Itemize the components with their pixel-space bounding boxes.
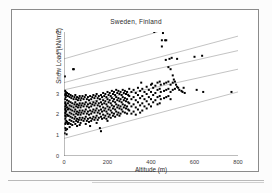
x-tick-label: 800 bbox=[229, 159, 247, 165]
data-point bbox=[90, 120, 92, 122]
data-point bbox=[69, 104, 71, 106]
data-point bbox=[150, 98, 152, 100]
data-point bbox=[70, 120, 72, 122]
data-point bbox=[68, 115, 70, 117]
data-point bbox=[139, 97, 141, 99]
data-point bbox=[70, 97, 72, 99]
data-point bbox=[112, 93, 114, 95]
data-point bbox=[114, 101, 116, 103]
data-point bbox=[96, 122, 98, 124]
data-point bbox=[95, 102, 97, 104]
data-point bbox=[89, 95, 91, 97]
data-point bbox=[64, 127, 66, 129]
data-point bbox=[77, 106, 79, 108]
data-point bbox=[150, 105, 152, 107]
data-point bbox=[170, 68, 172, 70]
data-point bbox=[77, 114, 79, 116]
data-point bbox=[104, 107, 106, 109]
data-point bbox=[165, 82, 167, 84]
data-point bbox=[116, 106, 118, 108]
data-point bbox=[84, 96, 86, 98]
data-point bbox=[85, 101, 87, 103]
data-point bbox=[112, 115, 114, 117]
data-point bbox=[157, 89, 159, 91]
envelope-upper-1 bbox=[64, 32, 158, 59]
data-point bbox=[107, 105, 109, 107]
data-point bbox=[91, 103, 93, 105]
y-axis-label-wrap: Snow Load (kN/m2) bbox=[47, 11, 59, 101]
data-point bbox=[167, 88, 169, 90]
data-point bbox=[139, 112, 141, 114]
data-point bbox=[121, 101, 123, 103]
data-point bbox=[103, 117, 105, 119]
data-point bbox=[89, 110, 91, 112]
data-point bbox=[83, 113, 85, 115]
data-point bbox=[125, 107, 127, 109]
plot-svg bbox=[64, 32, 238, 156]
data-point bbox=[148, 96, 150, 98]
data-point bbox=[126, 98, 128, 100]
data-point bbox=[112, 107, 114, 109]
data-point bbox=[171, 57, 173, 59]
data-point bbox=[85, 94, 87, 96]
data-point bbox=[159, 88, 161, 90]
data-point bbox=[104, 115, 106, 117]
data-point bbox=[176, 58, 178, 60]
data-point bbox=[95, 110, 97, 112]
data-point bbox=[70, 105, 72, 107]
data-point bbox=[161, 45, 163, 47]
data-point bbox=[111, 112, 113, 114]
data-point bbox=[96, 100, 98, 102]
data-point bbox=[175, 84, 177, 86]
data-point bbox=[75, 105, 77, 107]
data-point bbox=[74, 116, 76, 118]
y-tick-label: 5 bbox=[49, 49, 59, 55]
data-point bbox=[173, 79, 175, 81]
data-point bbox=[86, 98, 88, 100]
data-point bbox=[125, 100, 127, 102]
data-point bbox=[101, 118, 103, 120]
data-point bbox=[66, 133, 68, 135]
data-point bbox=[69, 96, 71, 98]
data-point bbox=[74, 94, 76, 96]
data-point bbox=[68, 100, 70, 102]
data-point bbox=[104, 93, 106, 95]
data-point bbox=[68, 93, 70, 95]
data-point bbox=[120, 113, 122, 115]
data-point bbox=[151, 83, 153, 85]
data-point bbox=[162, 32, 164, 34]
data-point bbox=[93, 119, 95, 121]
data-point bbox=[178, 89, 180, 91]
data-point bbox=[76, 111, 78, 113]
data-point bbox=[165, 89, 167, 91]
data-point bbox=[108, 101, 110, 103]
data-point bbox=[160, 98, 162, 100]
data-point bbox=[64, 101, 66, 103]
data-point bbox=[110, 110, 112, 112]
data-point bbox=[174, 81, 176, 83]
data-point bbox=[109, 106, 111, 108]
data-point bbox=[86, 113, 88, 115]
data-point bbox=[113, 113, 115, 115]
data-point bbox=[80, 99, 82, 101]
data-point bbox=[128, 95, 130, 97]
data-point bbox=[101, 111, 103, 113]
data-point bbox=[66, 99, 68, 101]
data-point bbox=[78, 119, 80, 121]
scatter-chart: Sweden, Finland Snow Load (kN/m2) 012345… bbox=[12, 10, 260, 173]
data-point bbox=[135, 92, 137, 94]
data-point bbox=[87, 96, 89, 98]
data-point bbox=[172, 82, 174, 84]
data-point bbox=[110, 95, 112, 97]
data-point bbox=[111, 90, 113, 92]
data-point bbox=[92, 116, 94, 118]
data-point bbox=[103, 95, 105, 97]
data-point bbox=[113, 98, 115, 100]
data-point bbox=[83, 105, 85, 107]
data-point bbox=[92, 109, 94, 111]
data-point bbox=[83, 98, 85, 100]
data-point bbox=[108, 116, 110, 118]
data-point bbox=[81, 110, 83, 112]
y-tick-label: 6 bbox=[49, 29, 59, 35]
data-point bbox=[97, 112, 99, 114]
